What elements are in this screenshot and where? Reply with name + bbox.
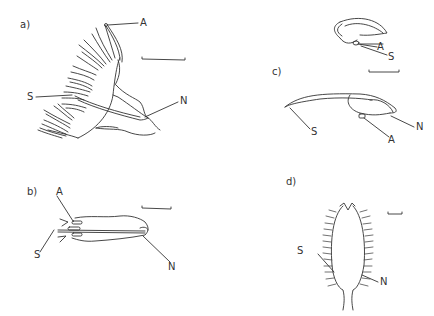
panel-a-drawing — [36, 23, 185, 138]
annotation-a-S: S — [27, 92, 33, 102]
leader-a-N — [145, 102, 178, 117]
panel-d-drawing — [318, 203, 402, 310]
annotation-a-N: N — [180, 96, 187, 106]
annotation-c-A: A — [388, 135, 395, 145]
leader-c-S — [290, 108, 310, 129]
panel-c-top-drawing — [334, 18, 399, 72]
panel-b-drawing — [40, 196, 171, 262]
scale-bar-c — [369, 70, 399, 72]
annotation-b-S: S — [34, 250, 40, 260]
scale-bar-d — [388, 212, 402, 214]
leader-b-A — [57, 196, 73, 221]
leader-a-A — [108, 23, 138, 25]
leader-b-N — [143, 236, 170, 262]
annotation-b-A: A — [56, 187, 63, 197]
annotation-a-A: A — [140, 18, 147, 28]
leader-b-S — [40, 230, 54, 252]
panel-c-drawing — [285, 94, 414, 137]
panel-label-a: a) — [20, 20, 30, 30]
leader-c-N — [391, 116, 414, 127]
leader-a-S — [36, 95, 72, 97]
annotation-b-N: N — [168, 262, 175, 272]
annotation-d-S: S — [297, 246, 303, 256]
panel-label-b: b) — [27, 187, 37, 197]
scale-bar-a — [142, 57, 185, 60]
annotation-c-top-A: A — [377, 42, 384, 52]
annotation-c-N: N — [416, 122, 423, 132]
annotation-c-S: S — [311, 127, 317, 137]
panel-label-d: d) — [286, 177, 296, 187]
diagram-canvas — [0, 0, 434, 316]
cilia-d — [323, 210, 373, 286]
tentacles-a — [38, 25, 115, 138]
scale-bar-b — [142, 206, 171, 209]
annotation-c-top-S: S — [388, 52, 394, 62]
leader-c-A — [364, 118, 389, 137]
panel-label-c: c) — [272, 67, 281, 77]
annotation-d-N: N — [380, 277, 387, 287]
